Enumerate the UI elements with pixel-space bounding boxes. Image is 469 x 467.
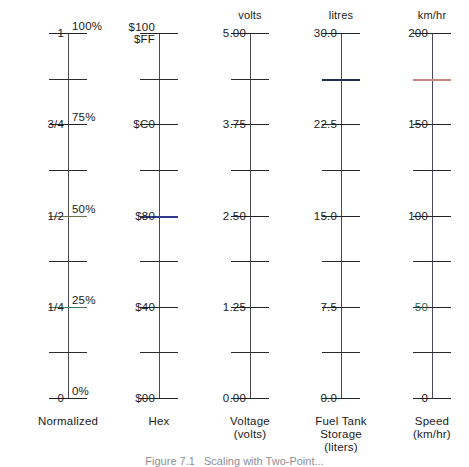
axis-tick-voltage-7	[231, 352, 269, 353]
axis-tick-hex-3	[140, 170, 178, 171]
axis-tick-voltage-5	[231, 261, 269, 262]
tick-label-speed-2: 100	[408, 210, 428, 222]
tick-label-voltage-3: 1.25	[223, 301, 246, 313]
tick-label-hex-1: $C0	[133, 118, 155, 130]
tick-label-fuel-tank-4: 0.0	[320, 392, 337, 404]
tick-label-fuel-tank-2: 15.0	[314, 210, 337, 222]
axis-tick-speed-3	[413, 170, 451, 171]
tick-label-normalized-1: 3/4	[47, 118, 64, 130]
axis-caption-normalized: Normalized	[38, 415, 98, 428]
tick-label-speed-1: 150	[408, 118, 428, 130]
figure-caption: Figure 7.1 Scaling with Two-Point...	[0, 455, 469, 467]
tick-label-right-normalized-3: 25%	[72, 294, 96, 306]
tick-label-hex-2: $80	[135, 210, 155, 222]
tick-label-right-normalized-4: 0%	[72, 385, 89, 397]
axis-tick-fuel-tank-1	[322, 79, 360, 81]
axis-tick-fuel-tank-5	[322, 261, 360, 262]
axis-caption-fuel-tank: Fuel Tank Storage (liters)	[315, 415, 366, 454]
tick-label-right-normalized-0: 100%	[72, 20, 102, 32]
tick-label-right-normalized-1: 75%	[72, 111, 96, 123]
tick-label-normalized-2: 1/2	[47, 210, 64, 222]
axis-tick-normalized-1	[49, 79, 87, 80]
tick-label-fuel-tank-1: 22.5	[314, 118, 337, 130]
tick-label-voltage-1: 3.75	[223, 118, 246, 130]
axis-tick-hex-5	[140, 261, 178, 262]
axis-tick-normalized-5	[49, 261, 87, 262]
axis-tick-hex-7	[140, 352, 178, 353]
tick-label-speed-3: 50	[415, 301, 428, 313]
tick-label-voltage-4: 0.00	[223, 392, 246, 404]
axis-caption-speed: Speed (km/hr)	[413, 415, 451, 441]
axis-tick-fuel-tank-7	[322, 352, 360, 353]
tick-label-fuel-tank-3: 7.5	[320, 301, 337, 313]
tick-label-hex-3: $40	[135, 301, 155, 313]
axis-tick-normalized-7	[49, 352, 87, 353]
tick-label-hex-4: $00	[135, 392, 155, 404]
tick-label-right-normalized-2: 50%	[72, 203, 96, 215]
axis-caption-hex: Hex	[148, 415, 169, 428]
tick-label-normalized-3: 1/4	[47, 301, 64, 313]
tick-label-normalized-0: 1	[57, 27, 64, 39]
tick-label-normalized-4: 0	[57, 392, 64, 404]
unit-label-voltage: volts	[238, 9, 262, 21]
scale-column-speed: km/hr200150100500Speed (km/hr)	[372, 0, 469, 465]
tick-label-speed-0: 200	[408, 27, 428, 39]
axis-tick-voltage-1	[231, 79, 269, 80]
axis-tick-hex-1	[140, 79, 178, 80]
axis-tick-voltage-3	[231, 170, 269, 171]
tick-label-voltage-0: 5.00	[223, 27, 246, 39]
tick-label-voltage-2: 2.50	[223, 210, 246, 222]
axis-tick-speed-8	[413, 398, 451, 399]
axis-tick-fuel-tank-3	[322, 170, 360, 171]
axis-tick-speed-1	[413, 79, 451, 81]
tick-label-hex-0: $100 $FF	[129, 21, 155, 45]
axis-tick-speed-7	[413, 352, 451, 353]
tick-label-speed-4: 0	[421, 392, 428, 404]
axis-tick-speed-5	[413, 261, 451, 262]
unit-label-speed: km/hr	[418, 9, 447, 21]
axis-tick-normalized-8	[49, 398, 87, 399]
tick-label-fuel-tank-0: 30.0	[314, 27, 337, 39]
unit-label-fuel-tank: litres	[329, 9, 353, 21]
axis-caption-voltage: Voltage (volts)	[230, 415, 270, 441]
axis-tick-normalized-3	[49, 170, 87, 171]
axis-tick-normalized-0	[49, 33, 87, 34]
